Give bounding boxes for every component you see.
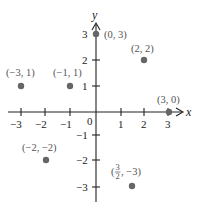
- x-tick-label: 2: [141, 118, 147, 130]
- x-axis-label: x: [185, 105, 192, 119]
- point-2-2: [141, 57, 147, 63]
- point-3-0: [166, 109, 172, 115]
- point-labels: (0, 3) (2, 2) (−3, 1) (−1, 1) (3, 0) (−2…: [6, 29, 180, 181]
- svg-text:2: 2: [116, 171, 120, 181]
- origin-label: 0: [87, 115, 93, 127]
- point-label: (3, 0): [157, 94, 180, 106]
- y-axis-label: y: [91, 8, 98, 22]
- y-tick-label: 1: [82, 80, 88, 92]
- axes: [8, 23, 183, 202]
- data-points: [18, 31, 172, 189]
- point-label: (−3, 1): [6, 67, 35, 79]
- svg-text:(: (: [111, 166, 115, 178]
- x-tick-label: 1: [118, 118, 124, 130]
- x-tick-label: −2: [35, 118, 47, 130]
- point-label: (2, 2): [131, 43, 154, 55]
- point-label: (−2, −2): [22, 142, 57, 154]
- point-label-fraction: ( 3 2 , −3): [111, 162, 141, 181]
- y-tick-label: 2: [82, 54, 88, 66]
- x-tick-label: 3: [165, 118, 171, 130]
- svg-text:, −3): , −3): [121, 166, 141, 178]
- point-label: (0, 3): [104, 29, 127, 41]
- point-3half-neg3: [129, 183, 135, 189]
- y-tick-label: −2: [76, 154, 88, 166]
- coordinate-plane: x y −3 −2 −1 0 1 2 3 3 2 1 −1 −2 −3: [0, 0, 204, 213]
- x-tick-label: −3: [10, 118, 22, 130]
- point-label: (−1, 1): [53, 67, 82, 79]
- point-neg2-neg2: [43, 157, 49, 163]
- point-neg1-1: [67, 83, 73, 89]
- y-tick-label: −3: [76, 181, 88, 193]
- point-neg3-1: [18, 83, 24, 89]
- point-0-3: [93, 31, 99, 37]
- x-tick-labels: −3 −2 −1 0 1 2 3: [10, 115, 171, 130]
- x-tick-label: −1: [60, 118, 72, 130]
- y-tick-labels: 3 2 1 −1 −2 −3: [76, 28, 88, 193]
- y-tick-label: 3: [82, 28, 88, 40]
- y-tick-label: −1: [76, 129, 88, 141]
